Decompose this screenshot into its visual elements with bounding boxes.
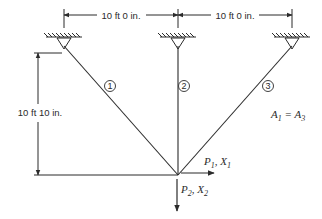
svg-text:3: 3 [265,81,270,91]
svg-text:1: 1 [107,81,112,91]
top-dimension [64,9,292,28]
member-1 [64,46,178,175]
member-label-3: 3 [263,81,274,92]
dimension-label-left: 10 ft 0 in. [101,10,140,21]
load-p1-label: P1, X1 [203,155,231,170]
member-label-2: 2 [179,81,190,92]
support-middle [158,33,196,49]
svg-text:2: 2 [181,81,186,91]
member-label-1: 1 [105,81,116,92]
dimension-label-right: 10 ft 0 in. [215,10,254,21]
area-equality-note: A1 = A3 [270,108,305,123]
load-p2-label: P2, X2 [180,183,208,198]
support-left [44,33,82,49]
dimension-label-vertical: 10 ft 10 in. [18,107,62,118]
truss-diagram: 10 ft 0 in. 10 ft 0 in. 1 2 3 [0,0,322,219]
